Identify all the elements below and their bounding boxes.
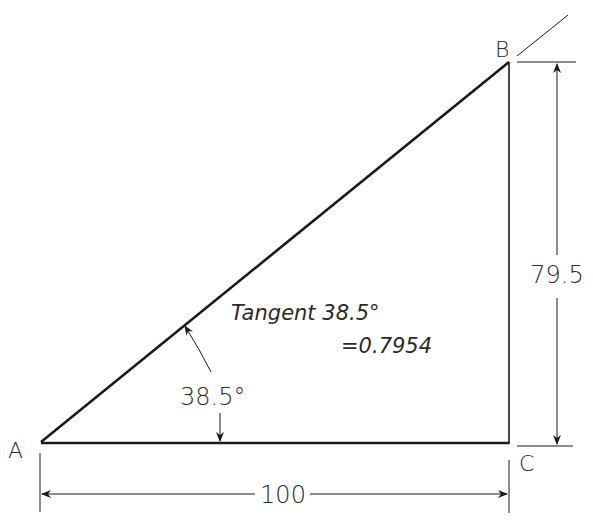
vertex-label-b: B [495,37,509,62]
base-dimension: 100 [40,453,509,513]
hypotenuse-ab [41,62,509,442]
triangle-diagram: 79.5 100 38.5° Tangent 38.5° =0.7954 A B… [0,0,593,528]
angle-label: 38.5° [180,383,245,411]
tangent-line-2: =0.7954 [341,334,432,358]
tangent-line-1: Tangent 38.5° [231,301,380,325]
vertex-label-c: C [519,451,534,476]
height-label: 79.5 [530,261,583,289]
extension-line-b [517,15,568,56]
triangle [41,62,509,444]
height-dimension: 79.5 [517,62,584,446]
base-label: 100 [260,481,306,509]
tangent-annotation: Tangent 38.5° =0.7954 [231,301,432,358]
angle-indicator: 38.5° [180,326,245,441]
vertex-label-a: A [8,438,23,463]
